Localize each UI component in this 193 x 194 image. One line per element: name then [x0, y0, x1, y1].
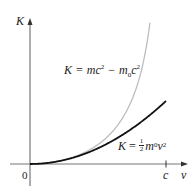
y-axis-label: K	[16, 15, 24, 27]
relativistic-equation-label: K = mc2 − m0c2	[64, 64, 140, 79]
cls-m: m	[145, 140, 154, 152]
kinetic-energy-diagram	[0, 0, 193, 194]
rel-sup1: 2	[101, 63, 105, 71]
cls-K: K	[118, 140, 126, 152]
rel-K: K	[64, 63, 72, 77]
cls-fraction: 1 2	[139, 138, 145, 153]
rel-equals: =	[76, 63, 83, 77]
rel-m0: m	[119, 63, 128, 77]
cls-den: 2	[140, 146, 144, 153]
x-axis-arrow-icon	[181, 162, 188, 167]
classical-equation-label: K = 1 2 m0v2	[118, 138, 166, 153]
rel-minus: −	[108, 63, 115, 77]
rel-mc: mc	[87, 63, 101, 77]
y-axis-arrow-icon	[28, 18, 33, 25]
rel-sup2: 2	[137, 63, 141, 71]
classical-curve	[30, 101, 166, 164]
c-tick-label: c	[163, 169, 168, 181]
origin-label: 0	[22, 170, 28, 181]
x-axis-label: v	[181, 169, 186, 181]
cls-equals: =	[129, 140, 136, 152]
cls-sup: 2	[163, 142, 167, 149]
